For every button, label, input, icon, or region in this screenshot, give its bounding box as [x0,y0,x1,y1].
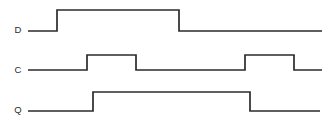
signal-row-c: C [15,55,322,75]
signal-label-d: D [15,24,22,35]
waveform-c [28,55,322,70]
timing-diagram-canvas: D C Q [0,0,336,121]
waveform-q [28,92,320,111]
timing-diagram: D C Q [0,0,336,121]
signal-label-q: Q [14,104,21,115]
signal-label-c: C [15,64,22,75]
signal-row-q: Q [14,92,320,115]
waveform-d [28,10,322,31]
signal-row-d: D [15,10,322,35]
